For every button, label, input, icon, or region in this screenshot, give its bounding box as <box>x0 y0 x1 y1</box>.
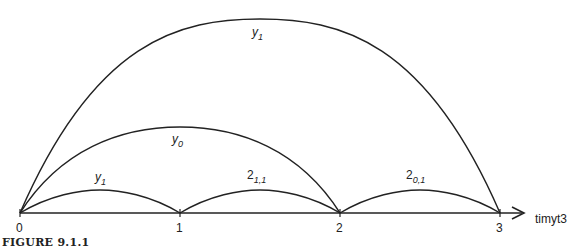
arc-1-2 <box>180 190 340 213</box>
tick-label-1: 1 <box>176 221 183 235</box>
tick-label-0: 0 <box>16 221 23 235</box>
arc-label-0-3: y1 <box>251 25 263 42</box>
arc-0-1 <box>20 190 180 213</box>
arc-label-0-2: y0 <box>171 132 183 149</box>
arc-label-0-1: y1 <box>94 170 106 187</box>
arc-label-2-3: 20,1 <box>406 168 425 185</box>
axis-label: timyt3 <box>535 212 567 226</box>
arc-label-1-2: 21,1 <box>247 168 266 185</box>
figure-caption: FIGURE 9.1.1 <box>2 236 90 249</box>
tick-label-2: 2 <box>336 221 343 235</box>
arc-diagram: y1 y0 y1 21,1 20,1 0 1 2 3 timyt3 <box>0 0 577 251</box>
tick-label-3: 3 <box>496 221 503 235</box>
arc-2-3 <box>340 190 500 213</box>
